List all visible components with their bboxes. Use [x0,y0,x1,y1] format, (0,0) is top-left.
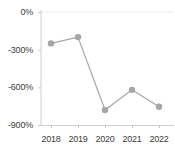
x-axis-tick-label: 2020 [95,134,114,144]
x-axis-tick-label: 2022 [149,134,168,144]
x-axis-tick-label: 2019 [68,134,87,144]
line-chart: 0%-300%-600%-900% 20182019202020212022 [0,0,175,156]
x-axis-tick-label: 2018 [41,134,60,144]
x-axis-label-group: 20182019202020212022 [0,0,175,156]
x-axis-tick-label: 2021 [122,134,141,144]
